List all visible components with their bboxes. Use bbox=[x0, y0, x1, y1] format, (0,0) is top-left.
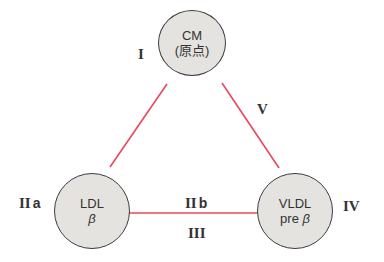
label-type-2b-letter: b bbox=[199, 195, 208, 211]
node-ldl: LDL β bbox=[54, 173, 130, 249]
node-cm-label: CM bbox=[182, 28, 202, 43]
node-vldl-sub-prefix: pre bbox=[280, 211, 302, 226]
node-ldl-label: LDL bbox=[80, 196, 104, 211]
label-type-2a-roman: II bbox=[19, 195, 31, 211]
node-vldl-sub-line: pre β bbox=[280, 211, 310, 227]
label-type-2a-letter: a bbox=[33, 195, 41, 211]
node-vldl-label: VLDL bbox=[279, 196, 312, 211]
label-type-1: I bbox=[138, 46, 144, 62]
label-type-3: III bbox=[188, 225, 206, 241]
edge-cm-vldl bbox=[222, 83, 279, 168]
node-vldl-sub: β bbox=[302, 211, 309, 226]
node-vldl: VLDL pre β bbox=[257, 173, 333, 249]
edge-cm-ldl bbox=[110, 84, 167, 167]
lipoprotein-phenotype-diagram: CM (原点) LDL β VLDL pre β I V IIa IIb III… bbox=[0, 0, 384, 262]
node-ldl-sub: β bbox=[88, 211, 95, 227]
label-type-5: V bbox=[257, 101, 268, 117]
label-type-4: IV bbox=[343, 198, 360, 214]
label-type-2a: IIa bbox=[19, 195, 40, 211]
label-type-2b-roman: II bbox=[185, 195, 197, 211]
node-cm-sub: (原点) bbox=[175, 43, 210, 59]
label-type-2b: IIb bbox=[185, 195, 207, 211]
node-cm: CM (原点) bbox=[158, 10, 226, 76]
